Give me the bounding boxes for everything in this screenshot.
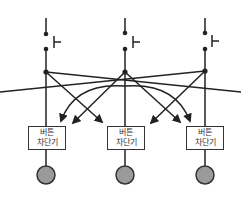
contact-dot — [203, 47, 208, 52]
button-blocker-box-middle: 버튼 차단기 — [107, 126, 145, 150]
box-label-line2: 차단기 — [108, 138, 144, 148]
box-label-line1: 버튼 — [187, 128, 223, 138]
arrow-to-middle — [46, 72, 102, 122]
curved-arrow-right — [125, 86, 190, 121]
circuit-diagram — [0, 0, 241, 202]
contact-dot — [203, 31, 208, 36]
arrow-to-middle — [151, 71, 205, 123]
button-blocker-box-left: 버튼 차단기 — [28, 126, 66, 150]
box-label-line1: 버튼 — [29, 128, 65, 138]
indicator-lamp-right — [196, 166, 214, 184]
connector-line — [0, 71, 205, 92]
box-label-line2: 차단기 — [29, 138, 65, 148]
contact-dot — [44, 47, 49, 52]
indicator-lamp-middle — [116, 166, 134, 184]
button-blocker-box-right: 버튼 차단기 — [186, 126, 224, 150]
contact-dot — [44, 32, 49, 37]
contact-dot — [123, 47, 128, 52]
contact-dot — [123, 31, 128, 36]
indicator-lamp-left — [37, 166, 55, 184]
box-label-line1: 버튼 — [108, 128, 144, 138]
box-label-line2: 차단기 — [187, 138, 223, 148]
arrow-to-left — [73, 72, 125, 123]
